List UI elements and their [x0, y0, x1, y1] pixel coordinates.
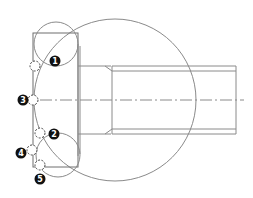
svg-text:2: 2 [51, 130, 57, 139]
marker-point-4 [27, 145, 37, 155]
bolt-construction-drawing: 1 2 3 4 5 [0, 0, 253, 198]
svg-text:4: 4 [18, 149, 24, 158]
thread-chamfer-top [105, 66, 112, 71]
marker-point-3 [28, 95, 38, 105]
thread-chamfer-bottom [105, 129, 112, 134]
badge-4: 4 [16, 148, 27, 159]
svg-text:5: 5 [37, 175, 43, 184]
marker-point-2 [35, 128, 45, 138]
marker-point-1 [30, 61, 40, 71]
badge-1: 1 [50, 56, 61, 67]
badge-2: 2 [49, 129, 60, 140]
svg-text:3: 3 [20, 96, 26, 105]
svg-text:1: 1 [52, 57, 58, 66]
marker-point-5 [35, 160, 45, 170]
lower-head-arc-circle [36, 133, 80, 177]
badge-5: 5 [35, 174, 46, 185]
badge-3: 3 [18, 95, 29, 106]
